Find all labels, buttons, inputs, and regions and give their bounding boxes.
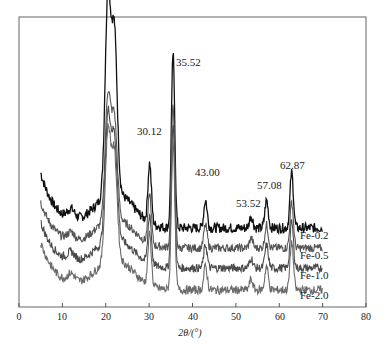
series-curves: [41, 0, 323, 294]
peak-label-43-00: 43.00: [195, 166, 220, 178]
peak-label-35-52: 35.52: [176, 56, 201, 68]
legend-fe-0-2: Fe-0.2: [300, 229, 328, 241]
x-tick-label-0: 0: [17, 311, 22, 322]
legend-fe-1-0: Fe-1.0: [300, 269, 329, 281]
peak-label-30-12: 30.12: [137, 125, 162, 137]
xrd-chart: 30.12 35.52 43.00 53.52 57.08 62.87 Fe-0…: [0, 0, 384, 352]
curve-fe-0-2: [41, 0, 323, 233]
x-axis-ticks: [19, 303, 366, 307]
peak-label-62-87: 62.87: [280, 159, 305, 171]
x-tick-label-10: 10: [57, 311, 67, 322]
legend-fe-2-0: Fe-2.0: [300, 289, 329, 301]
x-tick-label-20: 20: [101, 311, 111, 322]
x-tick-label-60: 60: [275, 311, 285, 322]
peak-label-57-08: 57.08: [257, 179, 282, 191]
x-axis-title: 2θ/(°): [178, 327, 202, 339]
x-tick-label-30: 30: [144, 311, 154, 322]
legend-fe-0-5: Fe-0.5: [300, 249, 329, 261]
x-tick-label-50: 50: [231, 311, 241, 322]
x-tick-label-40: 40: [188, 311, 198, 322]
x-tick-label-70: 70: [318, 311, 328, 322]
x-tick-label-80: 80: [361, 311, 371, 322]
peak-label-53-52: 53.52: [236, 197, 261, 209]
